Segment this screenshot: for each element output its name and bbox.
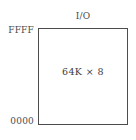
memory-map-diagram: I/O 64K × 8 FFFF 0000 [0,0,136,140]
io-region-label: I/O [38,11,128,22]
memory-capacity-label: 64K × 8 [38,66,128,78]
address-label-high: FFFF [0,25,34,36]
address-label-low: 0000 [0,116,34,127]
